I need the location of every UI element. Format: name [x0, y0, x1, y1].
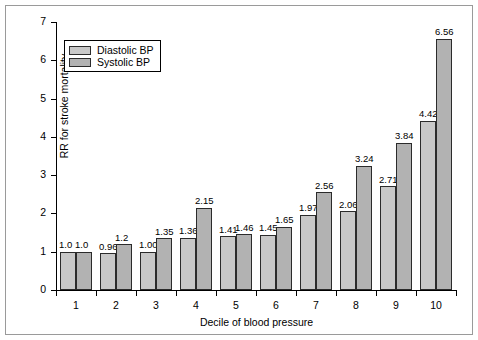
y-tick-label: 2 [4, 207, 46, 218]
x-axis-title: Decile of blood pressure [56, 316, 457, 328]
bar-value-label: 2.06 [339, 200, 358, 210]
x-tick [216, 291, 217, 296]
bar-value-label: 1.2 [115, 233, 128, 243]
y-tick-label: 7 [4, 16, 46, 27]
x-tick-label-6: 6 [256, 299, 296, 311]
bar-value-label: 2.15 [195, 196, 214, 206]
bar-diastolic-decile-6 [260, 235, 276, 291]
bar-diastolic-decile-5 [220, 236, 236, 290]
bar-systolic-decile-3 [156, 238, 172, 290]
bar-value-label: 1.46 [235, 223, 254, 233]
bar-value-label: 1.35 [155, 227, 174, 237]
bar-value-label: 1.65 [275, 215, 294, 225]
bar-diastolic-decile-8 [340, 211, 356, 290]
bar-value-label: 6.56 [435, 27, 454, 37]
x-tick [296, 291, 297, 296]
y-tick-label: 4 [4, 131, 46, 142]
bar-diastolic-decile-3 [140, 252, 156, 290]
bar-value-label: 1.00 [139, 240, 158, 250]
bar-systolic-decile-5 [236, 234, 252, 290]
bar-systolic-decile-7 [316, 192, 332, 290]
x-tick [56, 291, 57, 296]
x-tick [416, 291, 417, 296]
x-tick-label-10: 10 [416, 299, 456, 311]
y-tick-label: 0 [4, 284, 46, 295]
bar-value-label: 1.97 [299, 203, 318, 213]
x-tick-label-7: 7 [296, 299, 336, 311]
x-tick [136, 291, 137, 296]
bar-systolic-decile-1 [76, 252, 92, 290]
bar-value-label: 2.56 [315, 181, 334, 191]
chart-legend: Diastolic BP Systolic BP [64, 40, 161, 72]
y-tick-label: 5 [4, 93, 46, 104]
bar-value-label: 1.36 [179, 226, 198, 236]
x-tick-label-5: 5 [216, 299, 256, 311]
bar-systolic-decile-9 [396, 143, 412, 290]
x-tick [256, 291, 257, 296]
x-tick [336, 291, 337, 296]
bar-diastolic-decile-9 [380, 186, 396, 290]
bar-value-label: 3.84 [395, 131, 414, 141]
bar-systolic-decile-6 [276, 227, 292, 290]
bar-diastolic-decile-1 [60, 252, 76, 290]
y-tick-label: 3 [4, 169, 46, 180]
x-tick [376, 291, 377, 296]
legend-label-systolic: Systolic BP [97, 57, 150, 68]
bar-value-label: 0.96 [99, 242, 118, 252]
bar-systolic-decile-4 [196, 208, 212, 290]
x-tick [176, 291, 177, 296]
bar-value-label: 2.71 [379, 175, 398, 185]
legend-swatch-systolic [69, 58, 91, 67]
legend-label-diastolic: Diastolic BP [97, 45, 154, 56]
x-tick-label-4: 4 [176, 299, 216, 311]
x-tick [96, 291, 97, 296]
legend-swatch-diastolic [69, 46, 91, 55]
x-tick-label-9: 9 [376, 299, 416, 311]
bar-systolic-decile-8 [356, 166, 372, 290]
x-tick-label-3: 3 [136, 299, 176, 311]
chart-figure: 01234567 RR for stroke mortality 1.01.00… [0, 0, 478, 340]
bar-value-label: 1.0 [75, 240, 88, 250]
legend-item-systolic: Systolic BP [69, 56, 154, 68]
bar-diastolic-decile-10 [420, 121, 436, 290]
legend-item-diastolic: Diastolic BP [69, 44, 154, 56]
y-tick-label: 6 [4, 54, 46, 65]
bar-systolic-decile-10 [436, 39, 452, 290]
bar-diastolic-decile-4 [180, 238, 196, 290]
bar-value-label: 3.24 [355, 154, 374, 164]
bar-value-label: 1.0 [59, 240, 72, 250]
x-tick-label-1: 1 [56, 299, 96, 311]
x-tick-label-2: 2 [96, 299, 136, 311]
x-tick-label-8: 8 [336, 299, 376, 311]
bar-value-label: 4.42 [419, 109, 438, 119]
bar-systolic-decile-2 [116, 244, 132, 290]
bar-diastolic-decile-2 [100, 253, 116, 290]
bar-diastolic-decile-7 [300, 215, 316, 290]
y-tick-label: 1 [4, 246, 46, 257]
x-tick [456, 291, 457, 296]
